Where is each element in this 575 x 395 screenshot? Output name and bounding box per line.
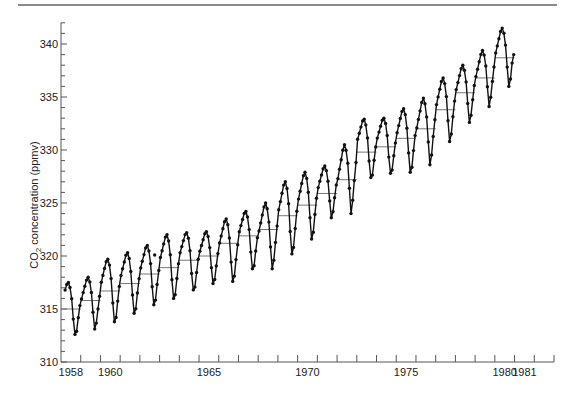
data-point bbox=[415, 126, 418, 129]
data-point bbox=[254, 249, 257, 252]
data-point bbox=[96, 307, 99, 310]
data-point bbox=[165, 233, 168, 236]
data-point bbox=[73, 333, 76, 336]
data-point bbox=[325, 169, 328, 172]
data-point bbox=[427, 140, 430, 143]
data-point bbox=[80, 297, 83, 300]
data-point bbox=[195, 271, 198, 274]
data-point bbox=[392, 154, 395, 157]
data-point bbox=[220, 234, 223, 237]
data-point bbox=[435, 103, 438, 106]
data-point bbox=[441, 76, 444, 79]
data-point bbox=[450, 132, 453, 135]
data-point bbox=[423, 102, 426, 105]
data-point bbox=[193, 285, 196, 288]
x-tick-label: 1981 bbox=[512, 366, 536, 378]
data-point bbox=[336, 177, 339, 180]
outlier-point bbox=[153, 253, 156, 256]
data-point bbox=[367, 159, 370, 162]
data-point bbox=[244, 210, 247, 213]
data-point bbox=[90, 291, 93, 294]
data-point bbox=[68, 286, 71, 289]
data-point bbox=[356, 138, 359, 141]
y-tick-label: 310 bbox=[40, 356, 58, 368]
data-point bbox=[386, 134, 389, 137]
data-point bbox=[479, 53, 482, 56]
data-point bbox=[159, 256, 162, 259]
data-point bbox=[201, 238, 204, 241]
data-point bbox=[359, 125, 362, 128]
data-point bbox=[151, 285, 154, 288]
data-point bbox=[382, 117, 385, 120]
data-point bbox=[241, 218, 244, 221]
data-point bbox=[157, 269, 160, 272]
data-point bbox=[178, 251, 181, 254]
monthly-series bbox=[63, 26, 515, 336]
data-point bbox=[154, 298, 157, 301]
data-point bbox=[146, 244, 149, 247]
data-point bbox=[128, 257, 131, 260]
data-point bbox=[91, 311, 94, 314]
data-point bbox=[402, 107, 405, 110]
data-point bbox=[504, 43, 507, 46]
data-point bbox=[483, 53, 486, 56]
data-point bbox=[363, 118, 366, 121]
x-tick-label: 1965 bbox=[197, 366, 221, 378]
data-point bbox=[147, 249, 150, 252]
y-tick-label: 330 bbox=[40, 144, 58, 156]
data-point bbox=[118, 285, 121, 288]
data-point bbox=[185, 231, 188, 234]
data-point bbox=[330, 216, 333, 219]
data-point bbox=[440, 80, 443, 83]
data-point bbox=[162, 242, 165, 245]
data-point bbox=[335, 183, 338, 186]
data-point bbox=[106, 258, 109, 261]
data-point bbox=[313, 213, 316, 216]
data-point bbox=[231, 280, 234, 283]
y-title-prefix: CO bbox=[28, 252, 40, 269]
data-point bbox=[407, 151, 410, 154]
data-point bbox=[455, 88, 458, 91]
y-tick-label: 340 bbox=[40, 38, 58, 50]
data-point bbox=[446, 119, 449, 122]
data-point bbox=[248, 228, 251, 231]
data-point bbox=[318, 180, 321, 183]
x-tick-label: 1958 bbox=[59, 366, 83, 378]
data-point bbox=[466, 102, 469, 105]
data-point bbox=[469, 114, 472, 117]
data-point bbox=[438, 88, 441, 91]
data-point bbox=[384, 122, 387, 125]
data-point bbox=[506, 65, 509, 68]
data-point bbox=[394, 141, 397, 144]
data-point bbox=[72, 317, 75, 320]
data-point bbox=[215, 264, 218, 267]
data-point bbox=[432, 135, 435, 138]
data-point bbox=[269, 245, 272, 248]
data-point bbox=[123, 260, 126, 263]
data-point bbox=[141, 260, 144, 263]
data-point bbox=[70, 297, 73, 300]
data-point bbox=[422, 96, 425, 99]
data-point bbox=[213, 278, 216, 281]
data-point bbox=[175, 277, 178, 280]
data-point bbox=[267, 220, 270, 223]
data-point bbox=[510, 61, 513, 64]
data-point bbox=[349, 212, 352, 215]
data-point bbox=[366, 136, 369, 139]
data-point bbox=[177, 262, 180, 265]
data-point bbox=[302, 174, 305, 177]
data-point bbox=[85, 278, 88, 281]
data-point bbox=[218, 241, 221, 244]
data-point bbox=[308, 216, 311, 219]
data-point bbox=[277, 208, 280, 211]
data-point bbox=[282, 183, 285, 186]
data-point bbox=[417, 118, 420, 121]
data-point bbox=[211, 282, 214, 285]
data-point bbox=[501, 26, 504, 29]
data-point bbox=[67, 281, 70, 284]
data-point bbox=[390, 168, 393, 171]
data-point bbox=[310, 237, 313, 240]
data-point bbox=[300, 182, 303, 185]
y-title-suffix: concentration (ppmv) bbox=[28, 141, 40, 247]
data-point bbox=[284, 180, 287, 183]
